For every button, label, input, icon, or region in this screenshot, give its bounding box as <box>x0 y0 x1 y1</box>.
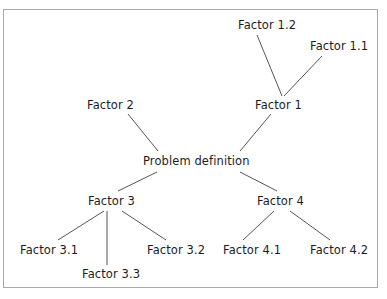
edge-factor4-to-factor4_2 <box>290 211 330 240</box>
node-factor4_2: Factor 4.2 <box>310 244 368 257</box>
edge-factor1_2-to-factor1 <box>257 35 282 96</box>
node-factor3_2: Factor 3.2 <box>147 244 205 257</box>
edge-factor1-to-root <box>240 114 271 151</box>
edge-factor3-to-factor3_2 <box>122 211 166 240</box>
edge-factor2-to-root <box>128 114 158 151</box>
edge-factor3-to-factor3_1 <box>58 211 104 240</box>
node-factor1: Factor 1 <box>255 99 302 112</box>
diagram-canvas: Problem definitionFactor 1Factor 1.1Fact… <box>0 0 387 299</box>
node-factor4: Factor 4 <box>257 195 304 208</box>
node-factor1_2: Factor 1.2 <box>238 19 296 32</box>
edge-root-to-factor4 <box>240 172 277 191</box>
node-factor4_1: Factor 4.1 <box>223 244 281 257</box>
node-factor2: Factor 2 <box>87 99 134 112</box>
node-factor3_1: Factor 3.1 <box>20 244 78 257</box>
edge-root-to-factor3 <box>118 172 157 191</box>
node-root: Problem definition <box>143 155 250 168</box>
edge-factor4-to-factor4_1 <box>243 211 274 240</box>
edge-factor1_1-to-factor1 <box>284 56 322 96</box>
node-factor3_3: Factor 3.3 <box>82 268 140 281</box>
node-factor1_1: Factor 1.1 <box>310 40 368 53</box>
node-factor3: Factor 3 <box>88 195 135 208</box>
